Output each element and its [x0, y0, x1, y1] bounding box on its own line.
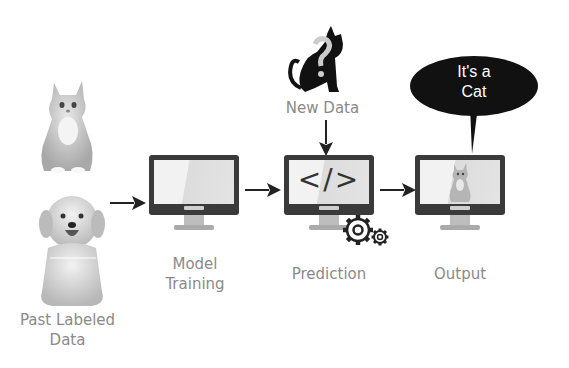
model-training-monitor-icon [149, 155, 239, 235]
arrow-right-icon [110, 195, 146, 215]
arrow-down-icon [318, 120, 334, 160]
code-text: </> [289, 163, 369, 196]
bubble-line1: It's a [408, 62, 540, 82]
output-monitor-icon [415, 155, 505, 235]
output-label: Output [410, 264, 510, 284]
bubble-line2: Cat [408, 82, 540, 102]
past-labeled-line2: Data [10, 330, 125, 350]
gear-icon [342, 212, 390, 252]
arrow-right-icon [380, 182, 416, 202]
model-line2: Training [145, 274, 245, 294]
prediction-label: Prediction [279, 264, 379, 284]
model-line1: Model [145, 254, 245, 274]
cat-question-icon [285, 22, 350, 94]
cat-photo-small [445, 161, 475, 203]
past-labeled-data-label: Past Labeled Data [10, 310, 125, 350]
model-training-label: Model Training [145, 254, 245, 294]
cat-photo [30, 75, 105, 175]
past-labeled-line1: Past Labeled [10, 310, 125, 330]
speech-bubble: It's a Cat [408, 56, 540, 156]
new-data-label: New Data [275, 98, 370, 118]
dog-photo [30, 192, 115, 310]
arrow-right-icon [245, 182, 281, 202]
